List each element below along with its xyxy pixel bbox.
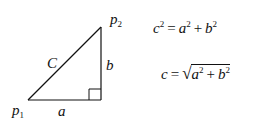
point-p1-label: p1 [12,103,24,119]
right-angle-marker [89,89,101,100]
side-c-label: C [47,56,57,71]
radicand: a2+b2 [191,64,229,82]
side-b-label: b [106,58,114,73]
side-a-label: a [58,104,66,119]
equation-hypotenuse-sqrt: c=√a2+b2 [161,64,230,82]
equation-pythagorean: c2=a2+b2 [153,20,217,36]
sqrt-symbol: √ [182,64,191,83]
point-p2-label: p2 [110,12,122,29]
triangle-figure [0,0,256,119]
